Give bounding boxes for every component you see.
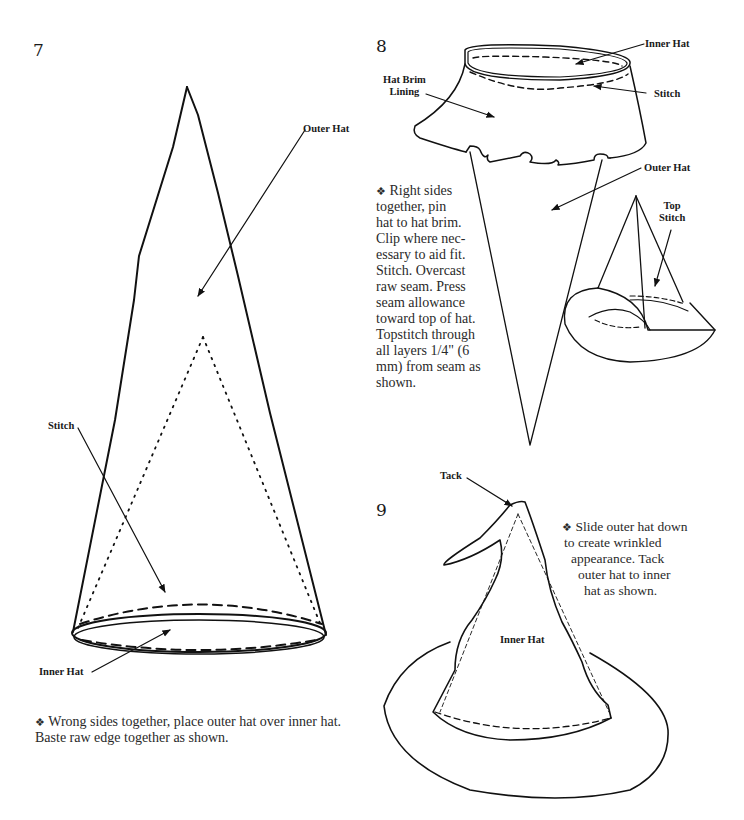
bullet-icon: ❖ xyxy=(35,716,45,728)
step9-line: hat as shown. xyxy=(584,583,740,599)
label-stitch: Stitch xyxy=(654,88,680,100)
label-top-stitch-2: Stitch xyxy=(659,212,685,223)
step7-cone-drawing xyxy=(72,87,326,672)
step7-instruction-line1: Wrong sides together, place outer hat ov… xyxy=(48,714,341,729)
step8-line: raw seam. Press xyxy=(376,279,466,294)
step8-line: Stitch. Overcast xyxy=(376,263,465,278)
step9-line: ❖ Slide outer hat down xyxy=(562,519,740,535)
label-inner-hat: Inner Hat xyxy=(39,666,83,678)
step-number-9: 9 xyxy=(376,500,387,520)
step-number-8: 8 xyxy=(376,36,387,56)
step9-line: appearance. Tack xyxy=(571,551,740,567)
step9-instruction: ❖ Slide outer hat down to create wrinkle… xyxy=(560,519,740,599)
step8-line: Topstitch through xyxy=(376,327,475,342)
step8-line: together, pin xyxy=(376,199,446,214)
step8-line: mm) from seam as xyxy=(376,359,481,374)
step8-line: Right sides xyxy=(390,183,453,198)
step8-instruction: ❖ Right sides together, pin hat to hat b… xyxy=(376,183,496,391)
step9-line: outer hat to inner xyxy=(578,567,740,583)
bullet-icon: ❖ xyxy=(562,521,572,533)
label-outer-hat: Outer Hat xyxy=(303,123,349,135)
label-top-stitch-1: Top xyxy=(664,200,681,211)
step8-line: all layers 1/4" (6 xyxy=(376,343,469,358)
step7-instruction-line2: Baste raw edge together as shown. xyxy=(35,730,229,745)
step9-line: to create wrinkled xyxy=(564,535,740,551)
step8-line: hat to hat brim. xyxy=(376,215,462,230)
step8-line: Clip where nec- xyxy=(376,231,465,246)
step8-line: essary to aid fit. xyxy=(376,247,465,262)
step8-line: shown. xyxy=(376,375,416,390)
label-hat-brim-lining-1: Hat Brim xyxy=(383,74,426,85)
step-number-7: 7 xyxy=(33,40,44,60)
label-outer-hat: Outer Hat xyxy=(644,162,690,174)
label-inner-hat: Inner Hat xyxy=(645,38,689,50)
label-hat-brim-lining-2: Lining xyxy=(390,86,420,97)
step7-instruction: ❖ Wrong sides together, place outer hat … xyxy=(35,714,365,746)
label-tack: Tack xyxy=(440,470,462,482)
label-inner-hat: Inner Hat xyxy=(500,634,544,646)
label-hat-brim-lining: Hat Brim Lining xyxy=(383,74,426,98)
step8-line: seam allowance xyxy=(376,295,465,310)
bullet-icon: ❖ xyxy=(376,185,386,197)
sewing-illustrations xyxy=(0,0,744,820)
label-top-stitch: Top Stitch xyxy=(659,200,685,224)
step8-line: toward top of hat. xyxy=(376,311,476,326)
step9-line-text: Slide outer hat down xyxy=(575,519,687,534)
label-stitch: Stitch xyxy=(48,420,74,432)
